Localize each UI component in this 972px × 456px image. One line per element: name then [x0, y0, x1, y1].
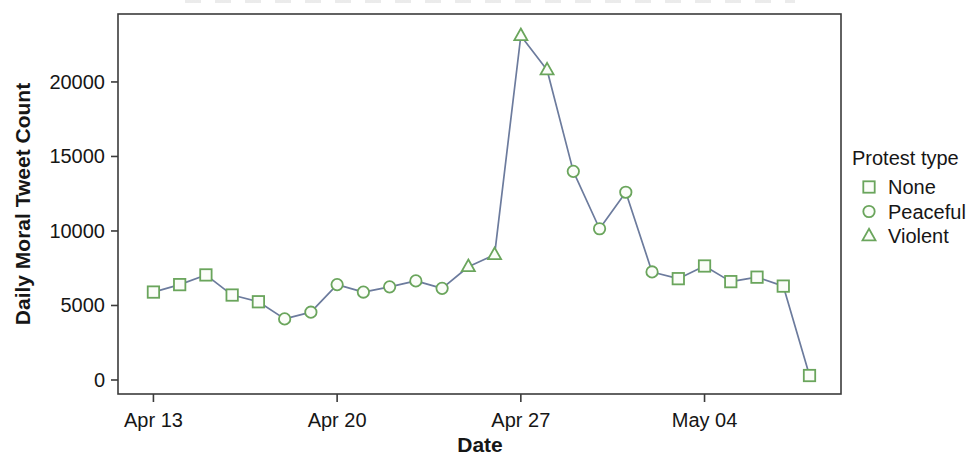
data-point-may-05: [725, 276, 736, 287]
legend-label-peaceful: Peaceful: [888, 201, 966, 223]
legend-marker-peaceful: [863, 206, 874, 217]
x-axis-label: Date: [457, 433, 503, 456]
data-point-apr-27: [514, 29, 527, 41]
legend-title: Protest type: [852, 147, 959, 169]
x-tick-label-0: Apr 13: [124, 409, 183, 431]
y-tick-label-2: 10000: [49, 220, 105, 242]
x-tick-label-2: Apr 27: [491, 409, 550, 431]
y-tick-label-3: 15000: [49, 145, 105, 167]
data-point-may-02: [646, 266, 657, 277]
data-point-apr-26: [488, 248, 501, 260]
plot-border: [118, 14, 841, 394]
data-point-apr-23: [410, 275, 421, 286]
data-point-apr-15: [200, 269, 211, 280]
data-point-apr-16: [226, 289, 237, 300]
daily-moral-tweet-count-line-chart: 05000100001500020000Apr 13Apr 20Apr 27Ma…: [0, 0, 972, 456]
data-point-may-06: [751, 271, 762, 282]
data-point-apr-14: [174, 279, 185, 290]
y-tick-label-0: 0: [94, 369, 105, 391]
data-point-apr-13: [148, 286, 159, 297]
y-axis-label: Daily Moral Tweet Count: [11, 83, 34, 325]
legend-label-none: None: [888, 176, 936, 198]
data-point-apr-29: [568, 166, 579, 177]
x-tick-label-1: Apr 20: [308, 409, 367, 431]
legend-marker-none: [863, 181, 874, 192]
data-point-apr-18: [279, 313, 290, 324]
data-point-may-01: [620, 187, 631, 198]
chart-figure: 05000100001500020000Apr 13Apr 20Apr 27Ma…: [0, 0, 972, 456]
data-point-apr-20: [331, 279, 342, 290]
x-tick-label-3: May 04: [672, 409, 738, 431]
data-point-may-04: [699, 260, 710, 271]
data-point-apr-22: [384, 281, 395, 292]
data-point-apr-19: [305, 306, 316, 317]
data-line: [153, 36, 809, 376]
legend-label-violent: Violent: [888, 225, 949, 247]
data-point-may-08: [804, 370, 815, 381]
data-point-apr-21: [358, 286, 369, 297]
data-point-apr-17: [253, 296, 264, 307]
data-point-apr-24: [436, 283, 447, 294]
legend-marker-violent: [863, 229, 876, 241]
y-tick-label-4: 20000: [49, 71, 105, 93]
cropped-text-remnant: [185, 0, 795, 3]
data-point-apr-30: [594, 223, 605, 234]
data-point-may-07: [778, 280, 789, 291]
y-tick-label-1: 5000: [61, 294, 106, 316]
data-point-may-03: [673, 273, 684, 284]
